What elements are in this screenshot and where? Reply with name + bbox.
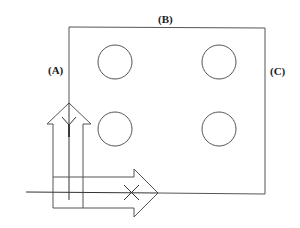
horizontal-arrow-centerline (26, 192, 158, 193)
hole-top-left (98, 45, 132, 79)
label-c: (C) (270, 65, 286, 78)
plate-diagram: (A) (B) (C) (0, 0, 300, 228)
plate-outline (69, 27, 265, 194)
hole-bottom-right (202, 112, 236, 146)
plate-holes (98, 45, 236, 146)
horizontal-arrow (26, 169, 158, 217)
label-b: (B) (158, 13, 173, 26)
hole-top-right (202, 45, 236, 79)
hole-bottom-left (98, 112, 132, 146)
plate-bottom-edge (158, 193, 265, 194)
plate-top-edge (69, 27, 265, 28)
label-a: (A) (48, 64, 64, 77)
